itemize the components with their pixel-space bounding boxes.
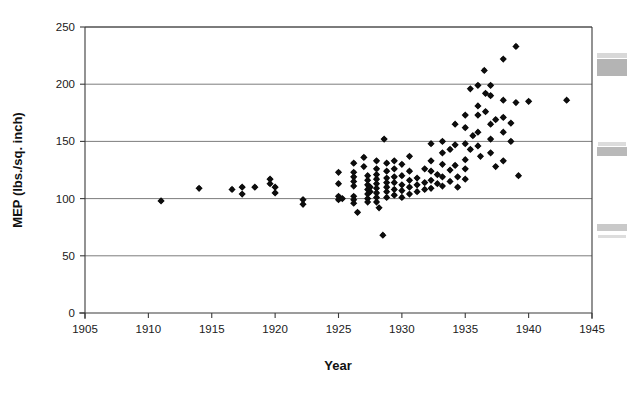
x-tick-label-1905: 1905: [72, 323, 98, 335]
y-tick-label-0: 0: [69, 307, 75, 319]
y-tick-label-200: 200: [56, 78, 75, 90]
scan-artifact-block: [597, 147, 627, 156]
scan-artifact-block: [598, 142, 626, 146]
x-tick-label-1940: 1940: [516, 323, 542, 335]
x-tick-labels-group: 190519101915192019251930193519401945: [72, 323, 605, 335]
scatter-plot-svg: 050100150200250 190519101915192019251930…: [0, 0, 633, 394]
scan-artifact-block: [597, 53, 627, 58]
x-tick-label-1915: 1915: [199, 323, 225, 335]
x-tick-label-1945: 1945: [579, 323, 605, 335]
y-tick-label-250: 250: [56, 21, 75, 33]
y-tick-label-150: 150: [56, 135, 75, 147]
y-tick-label-50: 50: [62, 250, 75, 262]
x-tick-label-1910: 1910: [136, 323, 162, 335]
x-tick-label-1935: 1935: [452, 323, 478, 335]
x-axis-title: Year: [324, 358, 351, 373]
y-tick-label-100: 100: [56, 193, 75, 205]
scan-artifact-block: [597, 59, 627, 76]
x-tick-label-1925: 1925: [326, 323, 352, 335]
x-tick-label-1930: 1930: [389, 323, 415, 335]
scan-artifact-block: [598, 235, 626, 238]
x-tick-label-1920: 1920: [262, 323, 288, 335]
chart-figure: 050100150200250 190519101915192019251930…: [0, 0, 633, 394]
scan-artifact-block: [597, 224, 627, 231]
y-axis-title: MEP (lbs./sq. inch): [10, 112, 25, 227]
